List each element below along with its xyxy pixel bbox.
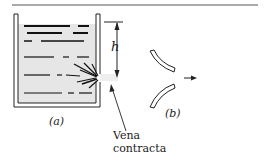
part-a-label: (a)	[49, 115, 64, 128]
tank	[14, 14, 118, 107]
flow-arrow-icon	[184, 76, 197, 81]
annotation-vena: Vena	[113, 129, 140, 142]
part-b-label: (b)	[165, 107, 181, 120]
nozzle	[150, 50, 175, 108]
dimension-label-h: h	[111, 39, 119, 54]
jet	[100, 74, 118, 81]
annotation-contracta: contracta	[113, 142, 166, 155]
vena-contracta-leader	[110, 84, 127, 131]
